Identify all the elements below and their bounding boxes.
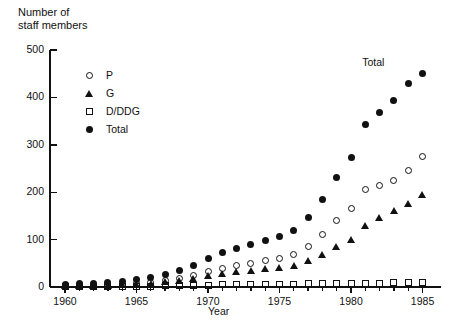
legend-item-total: Total [80,120,140,138]
data-point [376,280,383,287]
data-point [390,177,397,184]
legend-label: D/DDG [106,105,140,117]
data-point [290,251,297,258]
data-point [319,196,326,203]
data-point [348,205,355,212]
chart-container: Number of staff members Year 01002003004… [0,0,449,326]
data-point [233,281,240,288]
data-point [276,233,283,240]
data-point [418,191,426,198]
data-point [318,251,326,258]
data-point [405,167,412,174]
data-point [262,237,269,244]
data-point [147,283,154,290]
data-point [218,270,226,277]
data-point [262,281,269,288]
data-point [232,268,240,275]
data-point [261,265,269,272]
data-point [333,217,340,224]
data-point [90,280,97,287]
x-tick-label: 1980 [331,295,371,307]
y-tick-label: 500 [18,43,44,55]
data-point [361,222,369,229]
data-point [390,97,397,104]
data-point [219,249,226,256]
data-point [275,264,283,271]
data-point [162,271,169,278]
y-tick-label: 100 [18,233,44,245]
x-tick-label: 1960 [45,295,85,307]
data-point [305,214,312,221]
data-point [305,243,312,250]
data-point [76,280,83,287]
chart-axes [0,0,449,326]
data-point [333,174,340,181]
y-tick-label: 0 [18,280,44,292]
legend-item-g: G [80,84,140,102]
data-point [405,279,412,286]
data-point [189,275,197,282]
data-point [176,282,183,289]
data-point [390,207,398,214]
data-point [332,243,340,250]
data-point [262,257,269,264]
x-tick-label: 1970 [188,295,228,307]
filled-circle-icon [80,126,98,133]
data-point [62,281,69,288]
data-point [204,272,212,279]
legend-label: P [106,69,113,81]
legend-item-d-ddg: D/DDG [80,102,140,120]
data-point [247,281,254,288]
annotation-total: Total [362,56,384,68]
data-point [219,281,226,288]
legend-label: G [106,87,114,99]
open-circle-icon [80,72,98,79]
data-point [347,236,355,243]
x-tick-label: 1985 [403,295,443,307]
data-point [419,279,426,286]
data-point [247,241,254,248]
data-point [233,245,240,252]
data-point [205,282,212,289]
data-point [390,279,397,286]
data-point [362,280,369,287]
data-point [247,267,255,274]
y-tick-label: 300 [18,138,44,150]
data-point [419,153,426,160]
open-square-icon [80,108,98,115]
data-point [319,231,326,238]
legend-label: Total [106,123,128,135]
data-point [304,257,312,264]
legend-item-p: P [80,66,140,84]
data-point [348,154,355,161]
data-point [119,278,126,285]
data-point [162,282,169,289]
data-point [133,276,140,283]
data-point [190,262,197,269]
data-point [104,279,111,286]
data-point [376,182,383,189]
data-point [147,274,154,281]
data-point [290,262,298,269]
data-point [333,280,340,287]
y-tick-label: 400 [18,90,44,102]
chart-legend: PGD/DDGTotal [80,66,140,138]
data-point [133,283,140,290]
data-point [404,200,412,207]
data-point [362,121,369,128]
data-point [276,281,283,288]
data-point [376,109,383,116]
data-point [305,280,312,287]
data-point [375,214,383,221]
filled-triangle-icon [80,90,98,97]
data-point [176,267,183,274]
data-point [190,282,197,289]
data-point [419,70,426,77]
x-tick-label: 1965 [117,295,157,307]
data-point [290,281,297,288]
y-tick-label: 200 [18,185,44,197]
data-point [319,280,326,287]
data-point [290,227,297,234]
x-tick-label: 1975 [260,295,300,307]
data-point [362,186,369,193]
